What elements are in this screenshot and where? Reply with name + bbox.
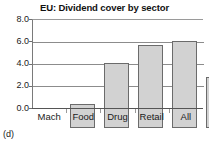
x-axis-tick-labels: MachFoodDrugRetailAll bbox=[32, 111, 203, 125]
chart-title: EU: Dividend cover by sector bbox=[0, 2, 209, 13]
x-axis-tick-label: Retail bbox=[135, 111, 169, 123]
y-axis-tick-mark bbox=[29, 108, 32, 109]
chart-figure: EU: Dividend cover by sector 8.06.04.02.… bbox=[0, 0, 209, 145]
y-axis-tick-mark bbox=[29, 86, 32, 87]
y-axis-tick-label: 8.0 bbox=[3, 15, 29, 24]
y-axis-tick-mark bbox=[29, 64, 32, 65]
y-axis-tick-label: 0.0 bbox=[3, 104, 29, 113]
bar bbox=[206, 77, 209, 128]
x-axis-tick-label: Food bbox=[66, 111, 100, 123]
y-axis-tick-label: 2.0 bbox=[3, 81, 29, 90]
plot-area bbox=[32, 19, 203, 108]
y-axis-tick-mark bbox=[29, 41, 32, 42]
figure-caption: (d) bbox=[3, 129, 14, 140]
y-axis-tick-labels: 8.06.04.02.00.0 bbox=[0, 0, 29, 145]
x-axis-line bbox=[32, 108, 203, 109]
y-axis-tick-label: 4.0 bbox=[3, 59, 29, 68]
y-axis-tick-label: 6.0 bbox=[3, 37, 29, 46]
y-axis-tick-mark bbox=[29, 19, 32, 20]
x-axis-tick-label: All bbox=[169, 111, 203, 123]
x-axis-tick-label: Drug bbox=[100, 111, 134, 123]
x-axis-tick-label: Mach bbox=[32, 111, 66, 123]
